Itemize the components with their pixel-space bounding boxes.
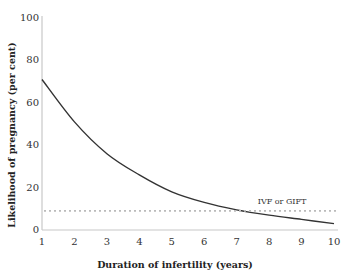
x-tick-labels: 12345678910 xyxy=(39,236,341,247)
y-tick-label: 80 xyxy=(26,54,39,65)
ivf-gift-label: IVF or GIFT xyxy=(258,197,307,206)
chart: 020406080100 12345678910 IVF or GIFT Dur… xyxy=(0,0,350,276)
y-tick-label: 0 xyxy=(33,224,39,235)
y-axis-title: Likelihood of pregnancy (per cent) xyxy=(6,42,17,227)
x-tick-label: 10 xyxy=(328,236,341,247)
x-tick-label: 7 xyxy=(233,236,239,247)
y-tick-label: 60 xyxy=(26,97,39,108)
y-tick-labels: 020406080100 xyxy=(20,12,39,235)
x-tick-label: 3 xyxy=(104,236,110,247)
y-tick-label: 100 xyxy=(20,12,39,23)
x-tick-label: 1 xyxy=(39,236,45,247)
x-tick-label: 8 xyxy=(266,236,272,247)
x-tick-label: 4 xyxy=(136,236,142,247)
x-tick-label: 6 xyxy=(201,236,207,247)
x-axis-title: Duration of infertility (years) xyxy=(97,259,253,270)
y-tick-label: 40 xyxy=(26,139,39,150)
x-tick-label: 9 xyxy=(298,236,304,247)
y-tick-label: 20 xyxy=(26,182,39,193)
x-tick-label: 2 xyxy=(71,236,77,247)
x-tick-label: 5 xyxy=(169,236,175,247)
